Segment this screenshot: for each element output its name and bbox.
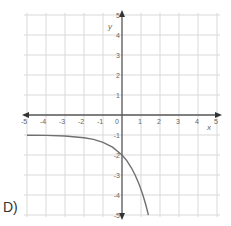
y-tick-label: 5 — [116, 12, 120, 19]
y-tick-label: 1 — [116, 92, 120, 99]
option-label: D) — [3, 199, 18, 215]
y-tick-label: -5 — [114, 212, 120, 219]
x-tick-label: -5 — [21, 118, 27, 125]
x-axis-label: x — [206, 123, 212, 132]
y-tick-label: 4 — [116, 32, 120, 39]
x-tick-label: 0 — [115, 118, 119, 125]
x-tick-label: -1 — [97, 118, 103, 125]
y-tick-label: 3 — [116, 52, 120, 59]
x-tick-label: -2 — [78, 118, 84, 125]
x-tick-label: -3 — [59, 118, 65, 125]
x-tick-label: 3 — [176, 118, 180, 125]
x-tick-label: 1 — [138, 118, 142, 125]
coordinate-plane: -5-4-3-2-1012345-5-4-3-2-112345xy — [0, 0, 231, 226]
x-tick-label: 5 — [214, 118, 218, 125]
y-tick-label: -4 — [114, 192, 120, 199]
x-tick-label: 4 — [195, 118, 199, 125]
y-tick-label: -1 — [114, 132, 120, 139]
y-tick-label: 2 — [116, 72, 120, 79]
y-tick-label: -3 — [114, 172, 120, 179]
y-axis-label: y — [107, 22, 113, 31]
x-tick-label: -4 — [40, 118, 46, 125]
x-tick-label: 2 — [157, 118, 161, 125]
